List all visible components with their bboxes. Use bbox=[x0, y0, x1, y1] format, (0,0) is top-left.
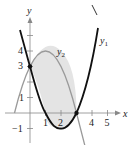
y-axis-label: y bbox=[26, 5, 32, 16]
intersection-point bbox=[74, 111, 78, 115]
tick-label-x1: 1 bbox=[43, 117, 48, 128]
tick-label-x5: 5 bbox=[105, 117, 110, 128]
tick-label-y4: 4 bbox=[18, 45, 23, 56]
graph: y x 1 2 4 5 4 3 1 −1 y2 y1 bbox=[0, 0, 132, 145]
tick-label-y1: 1 bbox=[19, 92, 24, 103]
x-axis-arrow bbox=[115, 111, 121, 116]
tick-label-yn1: −1 bbox=[12, 123, 23, 134]
tick-label-x4: 4 bbox=[89, 117, 94, 128]
x-axis-label: x bbox=[122, 108, 128, 119]
intersection-point bbox=[28, 64, 32, 68]
y-axis-arrow bbox=[28, 17, 33, 23]
tick-label-x2: 2 bbox=[58, 117, 63, 128]
tick-mark bbox=[92, 5, 97, 15]
tick-label-y3: 3 bbox=[18, 60, 23, 71]
curve-label-y1: y1 bbox=[99, 35, 108, 48]
